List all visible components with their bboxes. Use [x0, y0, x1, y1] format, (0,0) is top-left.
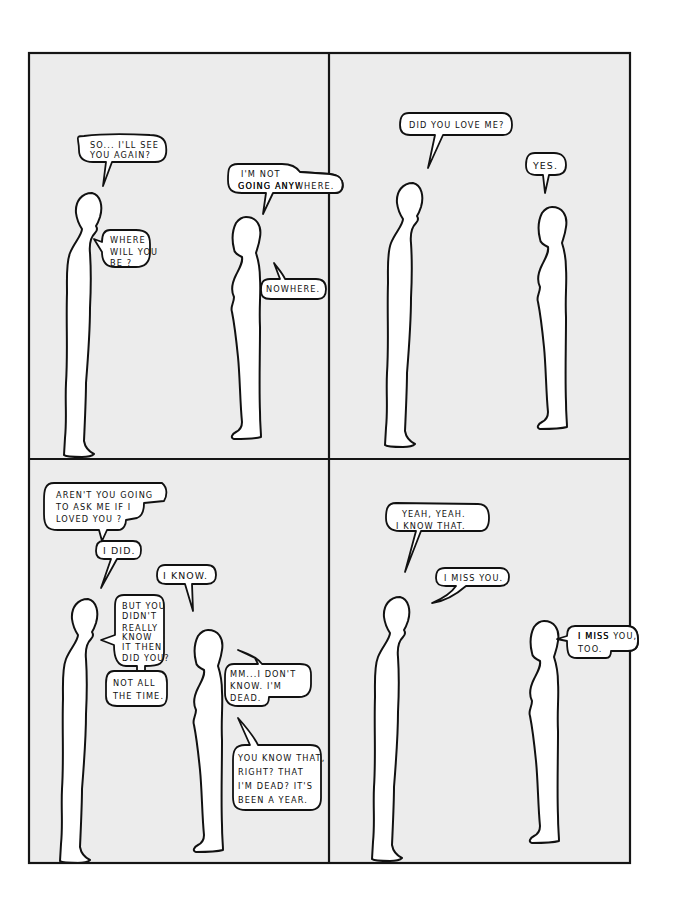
bubble-text-line: KNOW [122, 632, 152, 642]
bubble-text-line: TOO. [577, 644, 603, 654]
bubble-text-line: I MISS YOU. [444, 573, 503, 583]
bubble-text-line: DID YOU? [122, 653, 170, 663]
speech-bubble: WHERE WILL YOU BE ? [94, 230, 158, 268]
bubble-text-line: I MISS YOU, [578, 631, 637, 641]
bubble-text-line: AREN'T YOU GOING [56, 490, 153, 500]
bubble-text-line: DIDN'T [122, 611, 157, 621]
bubble-text-line: SO... I'LL SEE [90, 140, 159, 150]
bubble-text-line: I KNOW. [163, 570, 208, 581]
bubble-text-line: BUT YOU [122, 601, 166, 611]
bubble-text-line: I'M NOT [241, 169, 281, 179]
bubble-text-line: WHERE [110, 235, 146, 245]
bubble-text-line: TO ASK ME IF I [55, 502, 131, 512]
bubble-text-line: YES. [532, 160, 558, 171]
bubble-text-line: DID YOU LOVE ME? [409, 120, 504, 130]
bubble-text-line: I'M DEAD? IT'S [238, 781, 313, 791]
bubble-text-line: DEAD. [230, 693, 262, 703]
bubble-text-line: GOING ANYWHERE. [238, 181, 334, 191]
bubble-text-line: I DID. [103, 545, 136, 556]
bubble-text-line: NOWHERE. [266, 284, 320, 294]
bubble-text-line: KNOW. I'M [230, 681, 282, 691]
bubble-text-line: THE TIME. [112, 691, 164, 701]
bubble-text-line: I KNOW THAT. [396, 521, 466, 531]
bubble-text-line: YEAH, YEAH. [401, 509, 466, 519]
bubble-text-line: NOT ALL [113, 678, 156, 688]
bubble-text-line: BEEN A YEAR. [238, 795, 308, 805]
comic-page: SO... I'LL SEE YOU AGAIN? I'M NOT GOING … [0, 0, 678, 907]
bubble-text-line: YOU KNOW THAT, [237, 753, 325, 763]
bubble-text-line: MM...I DON'T [230, 669, 296, 679]
bubble-text-line: RIGHT? THAT [238, 767, 304, 777]
bubble-text-line: BE ? [110, 258, 132, 268]
speech-bubble: NOT ALL THE TIME. [106, 671, 167, 706]
bubble-text-line: LOVED YOU ? [56, 514, 122, 524]
bubble-text-line: IT THEN [122, 642, 162, 652]
bubble-text-line: WILL YOU [110, 247, 158, 257]
bubble-text-line: YOU AGAIN? [89, 150, 151, 160]
